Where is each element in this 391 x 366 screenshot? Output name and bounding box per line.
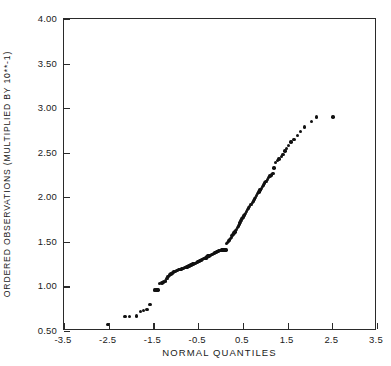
y-axis-tick-labels: 0.501.001.502.002.503.003.504.00 [0,0,391,366]
y-axis-title-container: ORDERED OBSERVATIONS (MULTIPLIED BY 10**… [0,18,14,330]
figure-canvas: -3.5-2.5-1.5-0.50.51.52.53.5 0.501.001.5… [0,0,391,366]
y-axis-title: ORDERED OBSERVATIONS (MULTIPLIED BY 10**… [2,51,12,297]
x-axis-title: NORMAL QUANTILES [63,347,376,358]
